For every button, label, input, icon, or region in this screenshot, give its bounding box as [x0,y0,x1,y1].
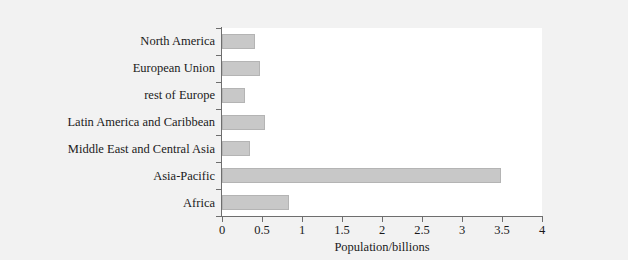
y-axis-tick [216,162,222,163]
y-axis-tick [216,28,222,29]
x-axis-tick-label: 1 [282,223,322,238]
x-axis-tick-label: 1.5 [322,223,362,238]
x-axis-tick-label: 2 [362,223,402,238]
x-axis-tick [382,217,383,222]
x-axis-tick-label: 3.5 [482,223,522,238]
x-axis-tick [302,217,303,222]
y-axis-tick [216,189,222,190]
x-axis-tick [542,217,543,222]
x-axis-tick-label: 0 [202,223,242,238]
y-axis-tick [216,135,222,136]
bar [222,34,255,49]
bar [222,61,260,76]
y-axis-category-label: Latin America and Caribbean [7,115,215,129]
bar [222,168,501,183]
x-axis-tick-label: 2.5 [402,223,442,238]
bar [222,115,265,130]
y-axis-category-label: European Union [7,61,215,75]
x-axis-tick [342,217,343,222]
x-axis-tick [222,217,223,222]
y-axis-tick [216,216,222,217]
bar [222,141,250,156]
figure-inner-panel: 00.511.522.533.54North AmericaEuropean U… [7,6,621,254]
y-axis-category-label: rest of Europe [7,88,215,102]
x-axis-tick-label: 4 [522,223,562,238]
y-axis-tick [216,55,222,56]
y-axis-tick [216,82,222,83]
x-axis-tick [462,217,463,222]
x-axis-tick [422,217,423,222]
plot-area [222,28,542,216]
y-axis-category-label: Africa [7,196,215,210]
figure-canvas: 00.511.522.533.54North AmericaEuropean U… [0,0,628,260]
y-axis-category-label: Middle East and Central Asia [7,142,215,156]
y-axis-category-label: Asia-Pacific [7,169,215,183]
x-axis-tick [262,217,263,222]
x-axis-tick-label: 3 [442,223,482,238]
x-axis-tick-label: 0.5 [242,223,282,238]
y-axis-tick [216,109,222,110]
y-axis-category-label: North America [7,34,215,48]
x-axis-tick [502,217,503,222]
bar [222,195,289,210]
bar [222,88,245,103]
x-axis-title: Population/billions [222,240,542,255]
